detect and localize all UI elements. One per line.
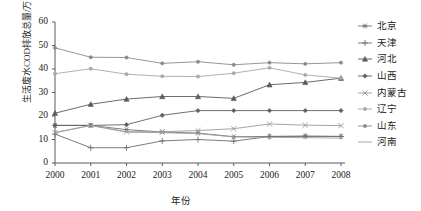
series-6 bbox=[53, 46, 342, 66]
x-tick-label: 2006 bbox=[250, 170, 290, 180]
legend-marker-icon bbox=[357, 37, 373, 49]
legend-marker-icon bbox=[357, 136, 373, 148]
x-tick-label: 2008 bbox=[321, 170, 361, 180]
legend-item-北京[interactable]: 北京 bbox=[357, 18, 421, 35]
tick-marks bbox=[52, 22, 341, 166]
legend-marker-icon bbox=[357, 103, 373, 115]
axis-spines bbox=[55, 22, 345, 163]
legend-marker-icon bbox=[357, 70, 373, 82]
y-tick-label: 50 bbox=[22, 41, 48, 50]
x-tick-label: 2000 bbox=[35, 170, 75, 180]
legend-item-河北[interactable]: 河北 bbox=[357, 51, 421, 68]
y-tick-label: 60 bbox=[22, 17, 48, 26]
legend-marker-icon bbox=[357, 120, 373, 132]
chart-figure: 生活废水COD排放总量/万t 年份 0102030405060 20002001… bbox=[0, 0, 421, 211]
legend-item-辽宁[interactable]: 辽宁 bbox=[357, 101, 421, 118]
y-tick-label: 0 bbox=[22, 158, 48, 167]
x-tick-label: 2005 bbox=[214, 170, 254, 180]
legend-marker-icon bbox=[357, 20, 373, 32]
legend-label: 山东 bbox=[377, 120, 397, 132]
legend-label: 山西 bbox=[377, 70, 397, 82]
legend-item-天津[interactable]: 天津 bbox=[357, 35, 421, 52]
x-axis-label: 年份 bbox=[0, 193, 361, 207]
series-5 bbox=[53, 66, 342, 80]
x-tick-label: 2007 bbox=[285, 170, 325, 180]
x-tick-label: 2003 bbox=[142, 170, 182, 180]
chart-legend: 北京天津河北山西内蒙古辽宁山东河南 bbox=[357, 18, 421, 151]
x-tick-label: 2002 bbox=[107, 170, 147, 180]
legend-label: 河南 bbox=[377, 136, 397, 148]
legend-label: 内蒙古 bbox=[377, 87, 407, 99]
legend-label: 河北 bbox=[377, 53, 397, 65]
legend-item-山西[interactable]: 山西 bbox=[357, 68, 421, 85]
legend-label: 天津 bbox=[377, 37, 397, 49]
legend-label: 北京 bbox=[377, 20, 397, 32]
x-tick-label: 2001 bbox=[71, 170, 111, 180]
y-tick-label: 20 bbox=[22, 111, 48, 120]
legend-item-山东[interactable]: 山东 bbox=[357, 118, 421, 135]
y-tick-label: 30 bbox=[22, 88, 48, 97]
y-tick-label: 40 bbox=[22, 64, 48, 73]
legend-marker-icon bbox=[357, 53, 373, 65]
x-tick-label: 2004 bbox=[178, 170, 218, 180]
legend-item-内蒙古[interactable]: 内蒙古 bbox=[357, 84, 421, 101]
legend-item-河南[interactable]: 河南 bbox=[357, 134, 421, 151]
y-tick-label: 10 bbox=[22, 135, 48, 144]
legend-label: 辽宁 bbox=[377, 103, 397, 115]
legend-marker-icon bbox=[357, 87, 373, 99]
